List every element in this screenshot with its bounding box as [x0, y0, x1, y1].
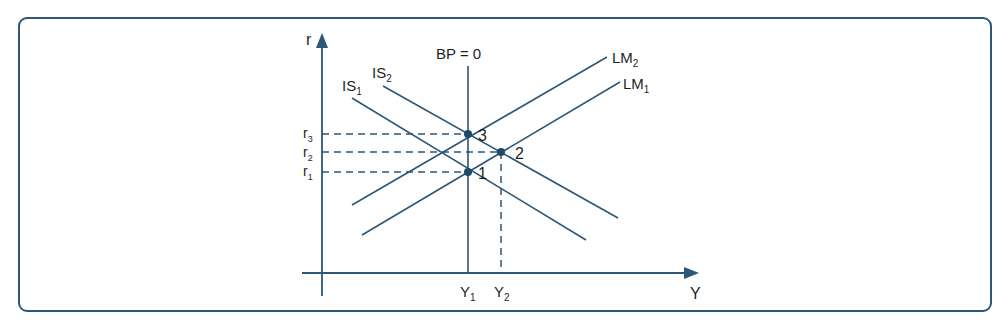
point-1: [464, 168, 472, 176]
r-axis-label: r: [306, 31, 312, 48]
r-axis: [316, 33, 328, 296]
dashed-guides: [322, 134, 501, 273]
y-axis-label: Y: [690, 285, 701, 302]
lm1-curve: [362, 82, 620, 235]
r3-tick: r3: [303, 125, 313, 144]
point-2: [497, 148, 505, 156]
point-3-label: 3: [478, 127, 487, 144]
point-1-label: 1: [478, 165, 487, 182]
bp-label: BP = 0: [436, 45, 481, 62]
is2-label: IS2: [372, 64, 392, 84]
y2-tick: Y2: [494, 283, 510, 303]
lm1-label: LM1: [623, 75, 650, 95]
point-2-label: 2: [515, 145, 524, 162]
y-axis-arrow-icon: [684, 267, 699, 279]
is1-label: IS1: [342, 77, 362, 97]
r2-tick: r2: [303, 144, 313, 163]
is-lm-bp-diagram: r Y BP = 0 IS2 IS1 LM2 LM1 r3 r2 r1 Y1 Y…: [0, 0, 1007, 334]
r-axis-arrow-icon: [316, 33, 328, 48]
r1-tick: r1: [303, 163, 313, 182]
y1-tick: Y1: [460, 283, 476, 303]
lm2-label: LM2: [612, 49, 639, 69]
point-3: [464, 130, 472, 138]
